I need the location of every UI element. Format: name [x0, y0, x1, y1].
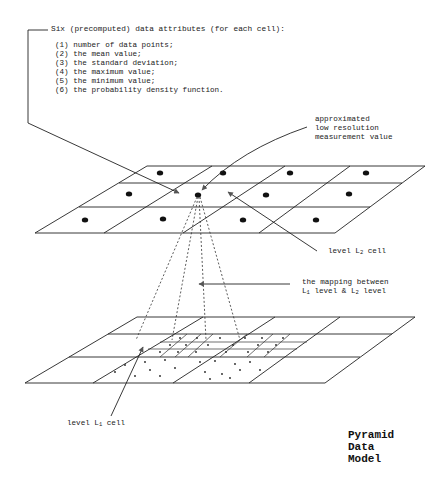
data-point [209, 378, 211, 380]
attribute-item: (6) the probability density function. [55, 86, 224, 95]
label-text: cell [363, 247, 386, 255]
sub-col-line [264, 334, 290, 357]
title-line: Model [348, 453, 381, 466]
level-l1-cell-label: level L1 cell [67, 419, 125, 429]
plane-edge [35, 166, 147, 233]
data-point [177, 351, 179, 353]
data-point [244, 337, 246, 339]
data-point [214, 360, 216, 362]
data-point [159, 375, 161, 377]
data-point [124, 364, 126, 366]
data-point [261, 337, 263, 339]
data-point [174, 367, 176, 369]
approx-label-line: low resolution [315, 124, 379, 133]
grid-col-line [104, 166, 212, 233]
mapping-lines [136, 197, 240, 340]
data-point [234, 363, 236, 365]
cell-value-dot [240, 218, 246, 223]
data-point [282, 337, 284, 339]
level-l1-plane [25, 317, 415, 383]
data-point [134, 375, 136, 377]
cell-value-dot [313, 218, 319, 223]
mapping-label-line: the mapping between [302, 278, 389, 287]
label-text: level & L [310, 287, 356, 295]
data-point [247, 351, 249, 353]
data-point [207, 344, 209, 346]
cell-value-dot [82, 218, 88, 223]
data-point [195, 351, 197, 353]
mapping-line [200, 197, 240, 340]
grid-col-line [183, 166, 285, 233]
attribute-item: (1) number of data points; [55, 41, 173, 50]
data-point [159, 351, 161, 353]
cell-value-dot [160, 217, 166, 222]
data-point [249, 361, 251, 363]
data-point [185, 344, 187, 346]
approx-value-pointer [202, 127, 307, 190]
data-point [164, 359, 166, 361]
cell-value-dot [263, 193, 269, 198]
data-point [204, 371, 206, 373]
data-point [259, 369, 261, 371]
data-point [257, 344, 259, 346]
title-line: Data [348, 441, 374, 454]
grid-col-line [259, 166, 350, 233]
mapping-label-line: L1 level & L2 level [302, 287, 386, 297]
plane-edge [25, 317, 137, 383]
approx-label-line: measurement value [315, 133, 392, 142]
label-text: cell [102, 419, 125, 427]
data-point [196, 337, 198, 339]
l1-data-points [114, 337, 284, 380]
data-point [275, 344, 277, 346]
cell-value-dot [157, 171, 163, 176]
data-point [114, 371, 116, 373]
grid-col-line [93, 317, 203, 383]
grid-col-line [249, 317, 340, 383]
attribute-item: (2) the mean value; [55, 50, 142, 59]
attribute-item: (3) the standard deviation; [55, 59, 178, 68]
cell-value-dot [195, 193, 201, 198]
attribute-item: (4) the maximum value; [55, 68, 155, 77]
data-point [232, 344, 234, 346]
level-l2-cell-label: level L2 cell [328, 247, 386, 257]
label-text: level L [67, 419, 99, 427]
mapping-line [136, 197, 197, 340]
cell-value-dot [346, 192, 352, 197]
data-point [169, 344, 171, 346]
grid-col-line [173, 317, 275, 383]
cell-value-dot [363, 171, 369, 176]
sub-col-line [160, 334, 187, 357]
data-point [219, 337, 221, 339]
label-text: level L [328, 247, 360, 255]
sub-col-line [188, 334, 213, 357]
data-point [199, 361, 201, 363]
sub-col-line [247, 334, 273, 357]
level-l2-plane [35, 166, 425, 233]
data-point [144, 361, 146, 363]
cell-value-dot [126, 192, 132, 197]
cell-value-dot [287, 171, 293, 176]
mapping-line [172, 197, 198, 340]
title-line: Pyramid [348, 429, 394, 442]
data-point [239, 369, 241, 371]
data-point [221, 373, 223, 375]
attributes-heading: Six (precomputed) data attributes (for e… [51, 25, 285, 33]
approx-label-line: approximated [315, 115, 370, 124]
data-point [149, 369, 151, 371]
plane-edge [325, 317, 415, 383]
data-point [179, 337, 181, 339]
data-point [229, 377, 231, 379]
l2-cell-values [82, 171, 369, 223]
data-point [225, 351, 227, 353]
label-text: level [359, 287, 386, 295]
attribute-item: (5) the minimum value; [55, 77, 155, 86]
data-point [267, 351, 269, 353]
plane-edge [335, 166, 425, 233]
